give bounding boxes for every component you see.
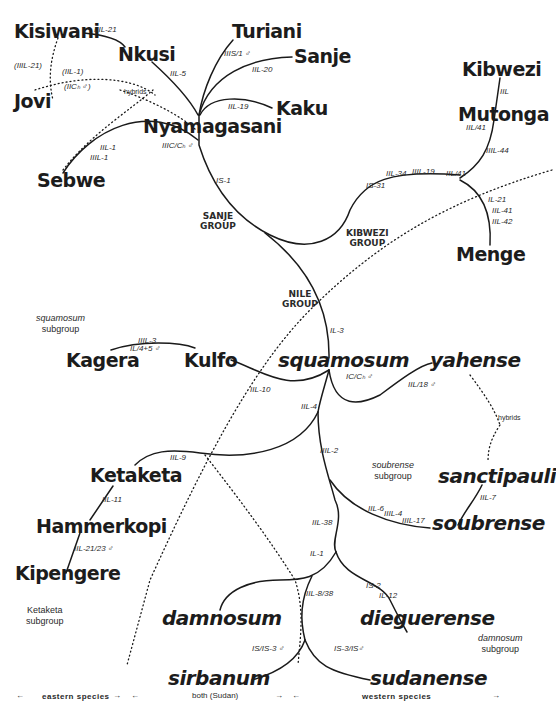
cytotype-label: IIL-4 [301, 403, 317, 411]
species-nkusi: Nkusi [118, 45, 175, 64]
dotted-yahense-hybrids [470, 375, 500, 425]
cytotype-label: IIL-11 [102, 496, 122, 504]
cytotype-label: IIL-41 [492, 207, 512, 215]
cytotype-label: IIL-42 [492, 218, 512, 226]
footer-both-sudan: both (Sudan) [192, 692, 238, 700]
cytotype-label: IS/IS-3 ♂ [252, 645, 285, 653]
cytotype-label: (IIIL-21) [14, 62, 42, 70]
cytotype-label: IIIL-1 [90, 154, 108, 162]
footer-western-species: western species [362, 693, 431, 701]
species-menge: Menge [456, 245, 525, 264]
cytotype-label: IL-12 [379, 592, 397, 600]
cytotype-label: IL-21 [488, 196, 506, 204]
arrow-left-icon: ← [292, 692, 300, 700]
subgroup-squamosum: squamosum subgroup [36, 313, 85, 335]
species-sanctipauli: sanctipauli [438, 466, 556, 486]
hybrids-label-right: hybrids [498, 414, 521, 421]
cytotype-label: IL/4+5 ♂ [130, 345, 161, 353]
arrow-left-icon: ← [16, 692, 24, 700]
cytotype-label: IS-2 [366, 582, 381, 590]
cytotype-label: IIL-34 [386, 170, 406, 178]
subgroup-squamosum-name: squamosum [36, 313, 85, 323]
cytotype-label: IS-1 [216, 177, 231, 185]
species-mutonga: Mutonga [458, 105, 549, 124]
arrow-right-icon: → [492, 692, 500, 700]
cytotype-label: IIL-8/38 [306, 590, 333, 598]
cytotype-label: (IICₕ ♂) [64, 83, 91, 91]
group-nile-line2: GROUP [282, 299, 318, 309]
species-ketaketa: Ketaketa [90, 466, 182, 485]
species-sudanense: sudanense [370, 668, 487, 688]
group-sanje: SANJE GROUP [200, 211, 236, 232]
dotted-both-boundary [205, 455, 301, 665]
species-soubrense: soubrense [432, 513, 545, 533]
arrow-right-icon: → [275, 692, 283, 700]
cytotype-label: IIL [500, 88, 509, 96]
branch-damnosum [220, 552, 336, 610]
cytotype-label: IIL-9 [170, 454, 186, 462]
cytotype-label: IIL-19 [228, 103, 248, 111]
species-hammerkopi: Hammerkopi [36, 517, 167, 536]
branch-iil4 [318, 370, 329, 412]
species-kipengere: Kipengere [15, 564, 121, 583]
subgroup-ketaketa-name: Ketaketa [26, 605, 64, 616]
cytotype-label: IIL-21/23 ♂ [74, 545, 114, 553]
species-kaku: Kaku [276, 99, 328, 118]
cytotype-label: IIL/41 [446, 170, 466, 178]
arrow-right-icon: → [113, 692, 121, 700]
branch-menge [460, 180, 490, 245]
cytotype-label: IIIL-2 [320, 447, 338, 455]
subgroup-soubrense: soubrense subgroup [372, 460, 414, 482]
group-kibwezi-line1: KIBWEZI [346, 228, 389, 238]
cytotype-label: IIL-20 [252, 66, 272, 74]
cytotype-label: IIL-10 [250, 386, 270, 394]
species-yahense: yahense [430, 350, 521, 370]
cytotype-label: IIL-7 [480, 494, 496, 502]
species-sebwe: Sebwe [37, 171, 105, 190]
subgroup-ketaketa: Ketaketa subgroup [26, 605, 64, 627]
subgroup-ketaketa-suffix: subgroup [26, 616, 64, 627]
branch-iil2 [318, 412, 339, 552]
arrow-left-icon: ← [131, 692, 139, 700]
cytotype-label: IIIL-17 [402, 517, 425, 525]
cytotype-label: IIL-5 [170, 70, 186, 78]
cytotype-label: IIIL-4 [384, 510, 402, 518]
cytotype-label: IIL/41 [466, 124, 486, 132]
species-kisiwani: Kisiwani [14, 22, 99, 41]
cytotype-label: IC/Cₕ ♂ [346, 373, 373, 381]
subgroup-soubrense-name: soubrense [372, 460, 414, 470]
group-kibwezi: KIBWEZI GROUP [346, 228, 389, 249]
species-kulfo: Kulfo [184, 351, 237, 370]
species-jovi: Jovi [14, 92, 51, 111]
species-kagera: Kagera [66, 351, 139, 370]
subgroup-soubrense-suffix: subgroup [372, 471, 414, 482]
cytotype-label: IL-1 [310, 550, 324, 558]
dotted-kisiwani-jovi [50, 38, 58, 100]
species-damnosum: damnosum [162, 608, 282, 628]
species-turiani: Turiani [232, 22, 302, 41]
species-kibwezi: Kibwezi [462, 60, 541, 79]
species-nyamagasani: Nyamagasani [143, 117, 282, 136]
footer-eastern-species: eastern species [42, 693, 110, 701]
species-squamosum: squamosum [278, 350, 409, 370]
cytotype-label: (IIL-1) [62, 68, 83, 76]
subgroup-damnosum-suffix: subgroup [478, 644, 523, 655]
group-nile: NILE GROUP [282, 289, 318, 310]
cytotype-label: IIL-6 [368, 505, 384, 513]
cytotype-label: IIIL-21 [94, 26, 117, 34]
group-nile-line1: NILE [282, 289, 318, 299]
group-kibwezi-line2: GROUP [346, 238, 389, 248]
cytotype-label: IS-3/IS♂ [334, 645, 364, 653]
dotted-hybrids-sanctipauli [488, 425, 500, 462]
cytotype-label: IIIL-19 [412, 168, 435, 176]
species-dieguerense: dieguerense [360, 608, 495, 628]
branch-iil9 [135, 412, 318, 465]
cytotype-label: IS-31 [366, 182, 385, 190]
cytotype-label: IIIL-44 [486, 147, 509, 155]
cytotype-label: IIIS/1 ♂ [224, 50, 251, 58]
cytotype-label: IIL/18 ♂ [408, 381, 436, 389]
species-sanje: Sanje [294, 47, 351, 66]
subgroup-damnosum: damnosum subgroup [478, 633, 523, 655]
subgroup-damnosum-name: damnosum [478, 633, 523, 643]
species-sirbanum: sirbanum [168, 668, 270, 688]
